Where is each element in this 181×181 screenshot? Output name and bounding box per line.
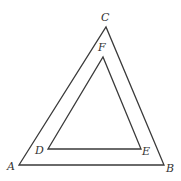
- vertex-label-f: F: [97, 41, 106, 54]
- inner-triangle-def: [48, 57, 141, 149]
- triangle-diagram: C F A B D E: [0, 0, 181, 181]
- vertex-label-a: A: [6, 160, 15, 173]
- vertex-label-c: C: [101, 11, 110, 24]
- vertex-label-e: E: [141, 145, 150, 158]
- vertex-label-b: B: [165, 162, 174, 175]
- vertex-label-d: D: [34, 144, 44, 157]
